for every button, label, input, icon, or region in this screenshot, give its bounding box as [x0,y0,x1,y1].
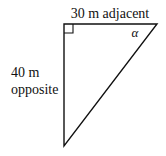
left-side-label-length: 40 m [11,65,40,80]
right-triangle [64,24,157,146]
triangle-diagram: 30 m adjacent α 40 m opposite [0,0,166,156]
angle-alpha-label: α [132,25,140,40]
top-side-label: 30 m adjacent [71,6,150,21]
left-side-label-name: opposite [11,82,58,97]
right-angle-marker [64,24,73,33]
